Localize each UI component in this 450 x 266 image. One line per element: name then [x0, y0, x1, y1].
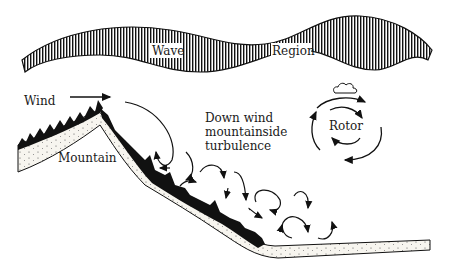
wind-label: Wind: [24, 94, 56, 108]
mountain-wave-diagram: Wave Region Wind Mountain Down wind moun…: [0, 0, 450, 266]
wave-label: Wave: [152, 44, 184, 58]
turbulence-label-line1: Down wind: [205, 111, 273, 125]
turbulence-label-line2: mountainside: [205, 125, 287, 139]
cloud-icon: [334, 83, 357, 93]
mountain-label: Mountain: [58, 151, 117, 165]
region-label: Region: [272, 44, 315, 58]
rotor-label: Rotor: [329, 119, 363, 133]
wave-region-band: Wave Region: [22, 16, 432, 72]
turbulence-label-line3: turbulence: [205, 139, 271, 153]
